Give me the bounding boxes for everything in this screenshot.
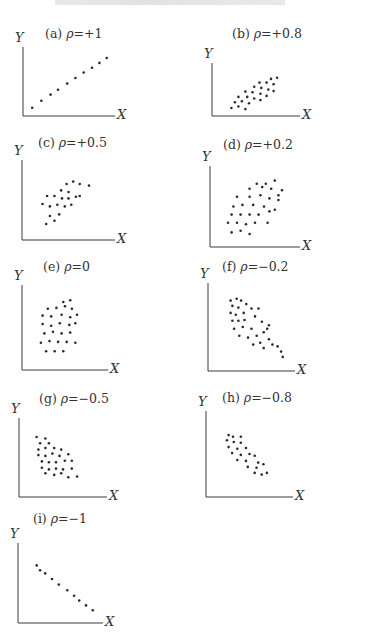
rho-value: =−0.8 (251, 390, 292, 405)
data-point (64, 459, 67, 462)
data-point (64, 305, 67, 308)
scatter-plot-e (0, 0, 378, 641)
axes-lines (212, 63, 300, 116)
data-point (51, 578, 54, 581)
data-point (49, 205, 52, 208)
data-point (43, 332, 46, 335)
data-point (266, 472, 269, 475)
data-point (71, 467, 74, 470)
data-point (78, 599, 81, 602)
axes-lines (19, 418, 107, 497)
data-point (98, 62, 101, 65)
data-point (41, 460, 44, 463)
data-point (67, 191, 70, 194)
data-point (248, 196, 251, 199)
data-point (72, 180, 75, 183)
data-point (50, 315, 53, 318)
data-point (231, 452, 234, 455)
data-point (44, 437, 47, 440)
data-point (240, 454, 243, 457)
data-point (257, 461, 260, 464)
data-point (85, 604, 88, 607)
data-point (248, 102, 251, 105)
data-point (67, 197, 70, 200)
data-point (236, 459, 239, 462)
data-point (235, 298, 238, 301)
data-point (48, 468, 51, 471)
data-point (246, 96, 249, 99)
data-point (271, 343, 274, 346)
data-point (71, 308, 74, 311)
data-point (76, 475, 79, 478)
data-point (274, 208, 277, 211)
data-point (67, 476, 70, 479)
data-point (49, 215, 52, 218)
data-point (53, 447, 56, 450)
data-point (71, 459, 74, 462)
data-point (44, 572, 47, 575)
data-point (244, 108, 247, 111)
data-point (274, 179, 277, 182)
y-axis-label: Y (11, 401, 20, 416)
data-point (253, 97, 256, 100)
data-point (257, 307, 260, 310)
data-point (57, 341, 60, 344)
data-point (238, 335, 241, 338)
data-point (237, 105, 240, 108)
data-point (55, 461, 58, 464)
data-point (65, 341, 68, 344)
panel-letter: (h) (222, 390, 244, 405)
data-point (265, 81, 268, 84)
scatter-plot-b (0, 0, 378, 641)
data-point (69, 331, 72, 334)
data-point (53, 474, 56, 477)
data-point (253, 86, 256, 89)
data-point (50, 325, 53, 328)
data-point (69, 316, 72, 319)
data-point (52, 331, 55, 334)
data-point (62, 301, 65, 304)
data-point (277, 199, 280, 202)
data-point (92, 609, 95, 612)
data-point (105, 57, 108, 60)
panel-letter: (i) (33, 511, 51, 526)
y-axis-label: Y (204, 46, 213, 61)
data-point (70, 204, 73, 207)
data-point (240, 299, 243, 302)
data-point (233, 328, 236, 331)
data-point (276, 345, 279, 348)
panel-title-i: (i) ρ=−1 (33, 511, 87, 526)
y-axis-label: Y (198, 394, 207, 409)
data-point (57, 89, 60, 92)
data-point (261, 320, 264, 323)
data-point (232, 205, 235, 208)
data-point (44, 455, 47, 458)
data-point (41, 323, 44, 326)
data-point (237, 320, 240, 323)
rho-value: =+0.5 (66, 135, 107, 150)
data-point (46, 195, 49, 198)
data-point (265, 183, 268, 186)
scatter-plot-i (0, 0, 378, 641)
data-point (58, 455, 61, 458)
rho-value: =0 (71, 259, 89, 274)
axes-lines (210, 166, 300, 247)
cropped-header-text (55, 0, 285, 5)
panel-letter: (f) (222, 259, 240, 274)
data-point (227, 446, 230, 449)
data-point (277, 194, 280, 197)
data-point (281, 189, 284, 192)
data-point (248, 233, 251, 236)
data-point (68, 324, 71, 327)
panel-letter: (g) (39, 391, 61, 406)
data-point (73, 595, 76, 598)
data-point (262, 347, 265, 350)
data-point (251, 91, 254, 94)
data-point (241, 204, 244, 207)
panel-title-c: (c) ρ=+0.5 (38, 135, 107, 150)
data-point (55, 467, 58, 470)
data-point (282, 356, 285, 359)
y-axis-label: Y (202, 149, 211, 164)
data-point (263, 205, 266, 208)
data-point (58, 213, 61, 216)
